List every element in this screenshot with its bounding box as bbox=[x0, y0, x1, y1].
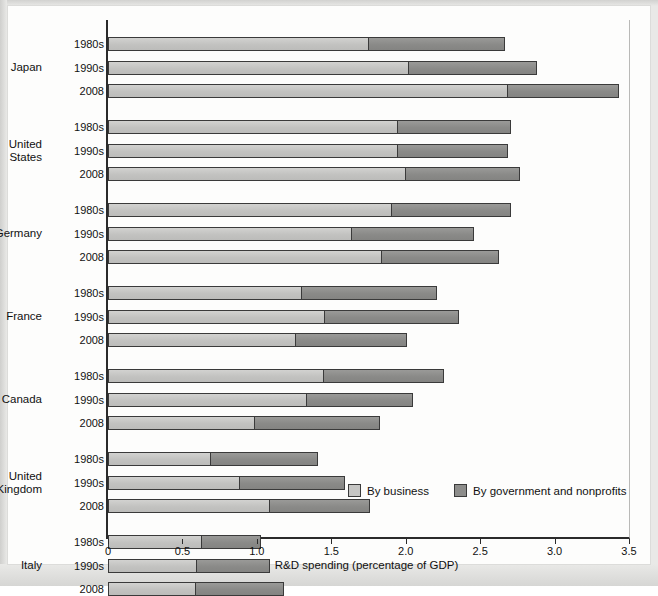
x-axis-tick-label: 3.0 bbox=[547, 545, 562, 557]
bar-row bbox=[108, 499, 370, 513]
bar-row bbox=[108, 61, 537, 75]
plot-area bbox=[106, 20, 630, 539]
bar-segment-business bbox=[108, 61, 409, 75]
bar-row bbox=[108, 452, 318, 466]
y-tick-label-period: 1990s bbox=[46, 310, 104, 324]
x-axis-tick-label: 3.5 bbox=[621, 545, 636, 557]
y-axis-group-label: Germany bbox=[0, 227, 42, 240]
bar-row bbox=[108, 250, 499, 264]
bar-segment-business bbox=[108, 476, 240, 490]
bar-segment-government bbox=[211, 452, 318, 466]
y-tick-label-period: 1990s bbox=[46, 476, 104, 490]
y-tick-label-period: 1980s bbox=[46, 369, 104, 383]
bar-segment-business bbox=[108, 452, 211, 466]
bar-segment-government bbox=[392, 203, 511, 217]
bar-segment-government bbox=[369, 37, 506, 51]
bar-segment-government bbox=[325, 310, 459, 324]
bar-segment-business bbox=[108, 333, 296, 347]
bar-segment-business bbox=[108, 84, 508, 98]
bar-segment-government bbox=[324, 369, 445, 383]
bar-segment-government bbox=[196, 582, 284, 596]
legend-label-government: By government and nonprofits bbox=[473, 485, 626, 497]
bar-row bbox=[108, 227, 474, 241]
bar-segment-business bbox=[108, 393, 307, 407]
bar-segment-business bbox=[108, 203, 392, 217]
bar-row bbox=[108, 393, 413, 407]
y-tick-label-period: 1990s bbox=[46, 393, 104, 407]
bar-row bbox=[108, 37, 505, 51]
bar-segment-business bbox=[108, 499, 270, 513]
y-tick-label-period: 2008 bbox=[46, 333, 104, 347]
bar-segment-government bbox=[352, 227, 474, 241]
y-tick-label-period: 1980s bbox=[46, 535, 104, 549]
bar-segment-business bbox=[108, 250, 382, 264]
bar-segment-business bbox=[108, 144, 398, 158]
y-tick-label-period: 1990s bbox=[46, 559, 104, 573]
chart-figure: 1980s1990s2008Japan1980s1990s2008United … bbox=[8, 6, 650, 564]
legend-label-business: By business bbox=[367, 485, 429, 497]
y-tick-label-period: 1980s bbox=[46, 120, 104, 134]
y-tick-label-period: 1980s bbox=[46, 286, 104, 300]
bar-segment-business bbox=[108, 369, 324, 383]
bar-row bbox=[108, 369, 444, 383]
x-axis-tick bbox=[555, 539, 556, 544]
y-axis-group-label: United Kingdom bbox=[0, 470, 42, 496]
x-axis-tick-label: 0.5 bbox=[175, 545, 190, 557]
bar-row bbox=[108, 203, 511, 217]
bar-row bbox=[108, 144, 508, 158]
bar-row bbox=[108, 310, 459, 324]
bar-segment-government bbox=[240, 476, 344, 490]
chart-legend: By business By government and nonprofits bbox=[348, 484, 626, 497]
y-tick-label-period: 1990s bbox=[46, 61, 104, 75]
bar-segment-government bbox=[307, 393, 413, 407]
bar-row bbox=[108, 333, 407, 347]
y-tick-label-period: 1980s bbox=[46, 203, 104, 217]
x-axis-tick-label: 0 bbox=[105, 545, 111, 557]
legend-item-government: By government and nonprofits bbox=[454, 484, 626, 497]
y-tick-label-period: 1990s bbox=[46, 227, 104, 241]
bar-row bbox=[108, 476, 345, 490]
y-tick-label-period: 1990s bbox=[46, 144, 104, 158]
bar-segment-business bbox=[108, 120, 398, 134]
legend-swatch-business bbox=[348, 484, 361, 497]
x-axis-tick bbox=[257, 539, 258, 544]
bar-segment-business bbox=[108, 310, 325, 324]
y-tick-label-period: 2008 bbox=[46, 416, 104, 430]
x-axis-tick-label: 2.5 bbox=[472, 545, 487, 557]
y-tick-label-period: 2008 bbox=[46, 250, 104, 264]
bar-segment-business bbox=[108, 37, 369, 51]
y-axis-group-label: Canada bbox=[0, 393, 42, 406]
y-tick-label-period: 2008 bbox=[46, 167, 104, 181]
y-tick-label-period: 2008 bbox=[46, 499, 104, 513]
bar-segment-business bbox=[108, 227, 352, 241]
x-axis-tick bbox=[480, 539, 481, 544]
x-axis-tick bbox=[182, 539, 183, 544]
bar-segment-government bbox=[296, 333, 408, 347]
y-tick-label-period: 1980s bbox=[46, 37, 104, 51]
page-edge-left bbox=[0, 0, 7, 586]
bar-segment-government bbox=[398, 120, 511, 134]
bar-segment-business bbox=[108, 286, 302, 300]
y-axis-group-label: France bbox=[0, 310, 42, 323]
legend-item-business: By business bbox=[348, 484, 429, 497]
y-axis-labels: 1980s1990s2008Japan1980s1990s2008United … bbox=[8, 20, 104, 537]
bar-segment-government bbox=[398, 144, 508, 158]
y-axis-group-label: United States bbox=[0, 138, 42, 164]
bar-segment-government bbox=[409, 61, 537, 75]
bar-segment-business bbox=[108, 167, 406, 181]
bar-segment-business bbox=[108, 582, 196, 596]
bar-row bbox=[108, 286, 437, 300]
x-axis-tick-label: 2.0 bbox=[398, 545, 413, 557]
y-axis-group-label: Japan bbox=[0, 61, 42, 74]
x-axis-tick bbox=[331, 539, 332, 544]
x-axis-tick bbox=[406, 539, 407, 544]
x-axis-tick-label: 1.0 bbox=[249, 545, 264, 557]
bar-row bbox=[108, 120, 511, 134]
legend-swatch-government bbox=[454, 484, 467, 497]
y-tick-label-period: 1980s bbox=[46, 452, 104, 466]
x-axis-tick-label: 1.5 bbox=[324, 545, 339, 557]
bar-row bbox=[108, 582, 284, 596]
bar-segment-business bbox=[108, 416, 255, 430]
bar-segment-government bbox=[406, 167, 521, 181]
